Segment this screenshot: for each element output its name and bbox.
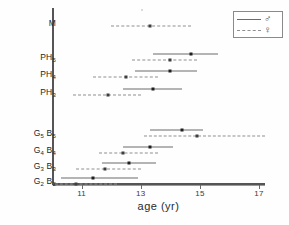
legend-line-female xyxy=(237,30,261,31)
y-category-label-g2b2: G2 B2 xyxy=(34,176,56,186)
y-category-label-ph5: PH5 xyxy=(40,52,56,62)
data-point-male-g5b5 xyxy=(181,129,184,132)
data-point-female-ph5 xyxy=(169,59,172,62)
legend-item-male: ♂ xyxy=(237,14,279,25)
data-point-male-ph5 xyxy=(190,53,193,56)
legend-box: ♂ ♀ xyxy=(233,11,283,38)
legend-item-female: ♀ xyxy=(237,25,279,36)
data-point-male-g3b3 xyxy=(127,162,130,165)
range-bar-female-g3b3 xyxy=(76,169,141,170)
data-point-female-g4b4 xyxy=(122,152,125,155)
y-category-label-ph3: PH3 xyxy=(40,87,56,97)
range-bar-male-ph4 xyxy=(135,71,197,72)
male-symbol-icon: ♂ xyxy=(264,13,272,24)
x-tick-label: 11 xyxy=(77,189,86,198)
legend-line-male xyxy=(237,19,261,20)
data-point-male-ph3 xyxy=(151,88,154,91)
data-point-female-g5b5 xyxy=(195,135,198,138)
range-bar-female-g4b4 xyxy=(99,153,158,154)
range-bar-female-ph5 xyxy=(132,60,197,61)
data-point-female-m xyxy=(148,25,151,28)
data-point-male-ph4 xyxy=(169,70,172,73)
image-speck xyxy=(141,9,143,11)
data-point-female-g2b2 xyxy=(74,183,77,186)
data-point-male-g4b4 xyxy=(148,146,151,149)
x-axis-title: age (yr) xyxy=(52,200,265,212)
y-category-label-g3b3: G3 B3 xyxy=(34,161,56,171)
range-bar-female-g2b2 xyxy=(55,184,117,185)
data-point-male-g2b2 xyxy=(92,177,95,180)
x-axis-shadow xyxy=(53,185,265,186)
y-category-label-g5b5: G5 B5 xyxy=(34,128,56,138)
range-bar-male-g2b2 xyxy=(61,178,138,179)
data-point-female-g3b3 xyxy=(104,168,107,171)
x-tick-label: 17 xyxy=(254,189,264,198)
range-bar-female-g5b5 xyxy=(144,136,265,137)
range-bar-male-g5b5 xyxy=(150,130,203,131)
x-tick-label: 13 xyxy=(136,189,146,198)
range-bar-male-ph5 xyxy=(153,54,218,55)
female-symbol-icon: ♀ xyxy=(264,24,272,35)
x-axis-title-text: age (yr) xyxy=(138,200,180,212)
x-tick-label: 15 xyxy=(195,189,205,198)
y-category-label-ph4: PH4 xyxy=(40,69,56,79)
data-point-female-ph3 xyxy=(107,94,110,97)
y-category-label-m: M xyxy=(49,18,56,28)
chart-canvas: 11131517 MPH5PH4PH3G5 B5G4 B4G3 B3G2 B2 … xyxy=(0,0,289,225)
y-category-label-g4b4: G4 B4 xyxy=(34,145,56,155)
data-point-female-ph4 xyxy=(124,76,127,79)
